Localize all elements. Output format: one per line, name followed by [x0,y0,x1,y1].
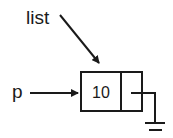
list-pointer-arrow [60,15,99,63]
list-pointer-label: list [26,7,50,28]
list-node: 10 [81,72,142,111]
node-box [81,72,142,111]
node-data-value: 10 [92,84,110,101]
linked-list-diagram: list p 10 [0,0,173,138]
p-pointer-label: p [12,81,23,102]
